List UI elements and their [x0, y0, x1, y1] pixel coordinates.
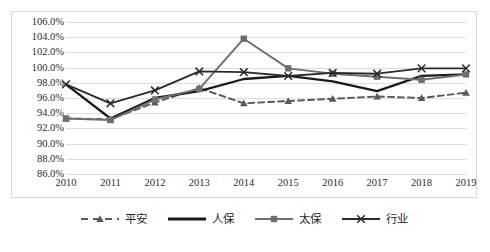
series-line [66, 39, 466, 120]
legend-item-太保[interactable]: 太保 [254, 213, 321, 225]
data-point-marker [241, 36, 247, 42]
data-point-marker [63, 115, 69, 121]
data-point-marker [152, 96, 158, 102]
series-line [66, 88, 466, 119]
x-axis-tick-label: 2019 [446, 177, 486, 189]
y-axis-tick-label: 104.0% [12, 32, 64, 42]
x-axis-tick-label: 2011 [90, 177, 130, 189]
y-axis: 106.0%104.0%102.0%100.0%98.0%96.0%94.0%9… [8, 22, 64, 174]
x-axis-tick-label: 2010 [46, 177, 86, 189]
x-axis-tick-label: 2015 [268, 177, 308, 189]
legend-label: 太保 [299, 213, 321, 225]
y-axis-tick-label: 98.0% [12, 78, 64, 88]
series-行业 [62, 65, 470, 108]
combined-ratio-line-chart: 106.0%104.0%102.0%100.0%98.0%96.0%94.0%9… [0, 0, 490, 252]
x-axis: 2010201120122013201420152016201720182019 [66, 177, 466, 193]
legend-swatch-square-icon [254, 213, 294, 225]
series-平安 [62, 84, 470, 122]
y-axis-tick-label: 88.0% [12, 154, 64, 164]
x-axis-tick-label: 2018 [402, 177, 442, 189]
data-point-marker [196, 86, 202, 92]
x-axis-tick-label: 2013 [179, 177, 219, 189]
legend-swatch-none-icon [167, 213, 207, 225]
data-point-marker [285, 65, 291, 71]
y-axis-tick-label: 102.0% [12, 47, 64, 57]
data-point-marker [107, 117, 113, 123]
y-axis-tick-label: 92.0% [12, 123, 64, 133]
x-axis-tick-label: 2014 [224, 177, 264, 189]
legend-swatch-triangle-icon [80, 213, 120, 225]
y-axis-tick-label: 90.0% [12, 139, 64, 149]
legend-label: 行业 [386, 213, 408, 225]
data-point-marker [418, 77, 424, 83]
y-axis-tick-label: 96.0% [12, 93, 64, 103]
data-point-marker [463, 71, 469, 77]
legend-item-行业[interactable]: 行业 [341, 213, 408, 225]
y-axis-tick-label: 94.0% [12, 108, 64, 118]
x-axis-tick-label: 2016 [313, 177, 353, 189]
series-line [66, 68, 466, 103]
legend-swatch-x-icon [341, 213, 381, 225]
legend-item-平安[interactable]: 平安 [80, 213, 147, 225]
series-太保 [63, 36, 469, 124]
y-axis-tick-label: 100.0% [12, 63, 64, 73]
gridline [66, 174, 466, 175]
chart-legend: 平安人保太保行业 [11, 206, 477, 232]
legend-label: 平安 [125, 213, 147, 225]
series-layer [66, 22, 466, 174]
legend-item-人保[interactable]: 人保 [167, 213, 234, 225]
y-axis-tick-label: 106.0% [12, 17, 64, 27]
plot-area [66, 22, 466, 174]
legend-label: 人保 [212, 213, 234, 225]
x-axis-tick-label: 2012 [135, 177, 175, 189]
x-axis-tick-label: 2017 [357, 177, 397, 189]
